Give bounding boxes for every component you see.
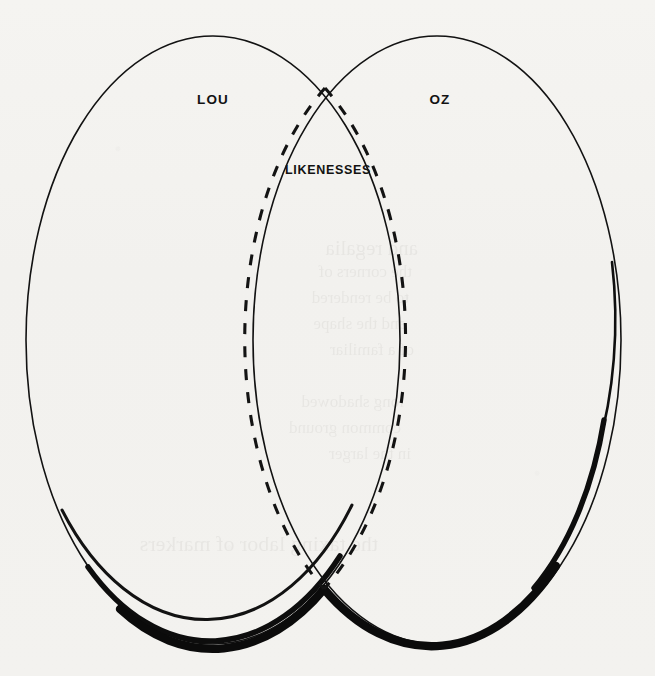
ellipse-oz-weighted-stroke-mid — [534, 420, 604, 588]
set-label-lou: LOU — [197, 92, 229, 107]
venn-diagram-canvas: and regaliathe corners ofto be rendereda… — [0, 0, 655, 676]
ellipse-oz-weighted-stroke-heavy — [324, 566, 556, 646]
ellipse-oz-outline — [253, 36, 621, 644]
ellipse-oz-weighted-stroke-upper — [597, 262, 615, 452]
ellipse-lou-outline — [26, 36, 400, 644]
intersection-label-likenesses: LIKENESSES — [285, 163, 371, 177]
set-label-oz: OZ — [430, 92, 451, 107]
venn-diagram-svg — [0, 0, 655, 676]
ellipse-lou-weighted-stroke-mid — [88, 556, 340, 641]
